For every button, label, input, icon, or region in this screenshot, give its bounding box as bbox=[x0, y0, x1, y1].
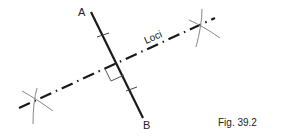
segment-ab bbox=[91, 12, 143, 118]
label-point-b: B bbox=[143, 119, 150, 131]
figure-caption: Fig. 39.2 bbox=[218, 117, 257, 128]
construction-arc-right-2 bbox=[196, 9, 202, 47]
diagram-canvas: A B Loci Fig. 39.2 bbox=[0, 0, 283, 137]
label-loci: Loci bbox=[142, 28, 163, 46]
construction-arc-left-2 bbox=[33, 88, 37, 124]
label-point-a: A bbox=[78, 6, 86, 18]
